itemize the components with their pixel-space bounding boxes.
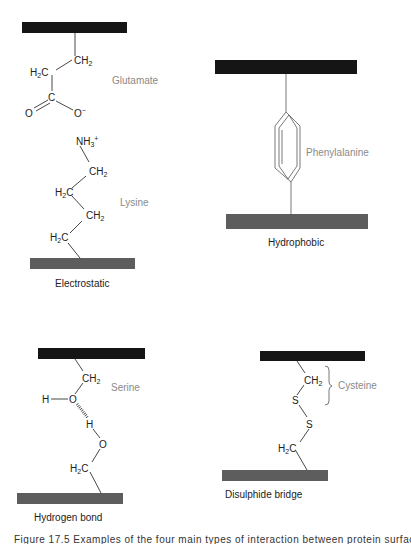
panel-caption-hydrophobic: Hydrophobic (268, 237, 324, 248)
atom-oxygen: O (69, 394, 77, 405)
residue-label-cysteine: Cysteine (338, 380, 377, 391)
panel-hydrophobic: Phenylalanine Hydrophobic (215, 60, 369, 248)
top-surface-bar (22, 22, 127, 33)
bond (75, 359, 83, 371)
atom-oxygen: O (25, 108, 33, 119)
panel-caption-disulphide-bridge: Disulphide bridge (225, 489, 303, 500)
panel-disulphide-bridge: CH2 S S H2C Cysteine Disulphide bridge (222, 351, 377, 500)
atom-sulfur: S (292, 395, 299, 406)
atom-h2c: H2C (278, 443, 296, 455)
bottom-surface-bar (226, 214, 368, 229)
bond (299, 405, 307, 417)
atom-h2c: H2C (55, 187, 73, 199)
atom-h2c: H2C (30, 67, 48, 79)
atom-ch2: CH2 (304, 375, 322, 387)
figure-caption: Figure 17.5 Examples of the four main ty… (0, 534, 411, 544)
bond (90, 472, 101, 493)
residue-label-phenylalanine: Phenylalanine (306, 147, 369, 158)
cysteine-bracket (325, 366, 332, 405)
atom-sulfur: S (306, 419, 313, 430)
bond (297, 361, 305, 373)
bond (70, 221, 82, 233)
bond (56, 60, 72, 70)
atom-oxygen: O (99, 439, 107, 450)
panel-hydrogen-bond: CH2 H O H O H2C Serine Hydrogen bond (17, 348, 145, 523)
atom-hydrogen: H (42, 394, 49, 405)
atom-ch2: CH2 (86, 210, 104, 222)
bond (72, 196, 84, 209)
bond (300, 429, 309, 442)
atom-ch2: CH2 (82, 373, 100, 385)
atom-h2c: H2C (50, 232, 68, 244)
hydrogen-bond-hash (77, 404, 88, 418)
double-bond (36, 103, 50, 111)
panel-caption-hydrogen-bond: Hydrogen bond (34, 512, 102, 523)
atom-h2c: H2C (70, 463, 88, 475)
bond (296, 451, 307, 470)
bond (80, 146, 89, 162)
bond (56, 101, 73, 110)
panel-electrostatic: CH2 H2C C O O− Glutamate NH3+ CH2 H2C CH… (22, 22, 159, 289)
atom-oxygen-minus: O− (74, 107, 86, 119)
residue-label-lysine: Lysine (120, 197, 149, 208)
bottom-surface-bar (30, 258, 135, 269)
atom-ch2: CH2 (89, 166, 107, 178)
top-surface-bar (215, 60, 357, 74)
atom-carbon: C (48, 92, 55, 103)
panel-caption-electrostatic: Electrostatic (55, 278, 109, 289)
bond (75, 383, 83, 394)
atom-nh3-plus: NH3+ (76, 135, 98, 148)
bond (92, 449, 100, 462)
bottom-surface-bar (222, 470, 328, 481)
residue-label-glutamate: Glutamate (112, 75, 159, 86)
double-bond (34, 100, 48, 108)
bond (68, 243, 80, 258)
atom-ch2: CH2 (74, 55, 92, 67)
top-surface-bar (260, 351, 365, 361)
top-surface-bar (38, 348, 145, 359)
residue-label-serine: Serine (111, 382, 140, 393)
bond (72, 176, 86, 188)
bond (93, 429, 100, 438)
atom-hydrogen: H (86, 419, 93, 430)
bottom-surface-bar (17, 493, 123, 504)
bond (297, 385, 304, 395)
